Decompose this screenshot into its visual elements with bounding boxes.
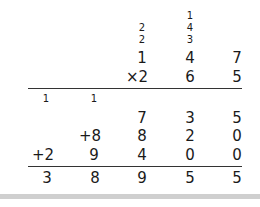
partial-product-digit: +2 <box>32 148 54 163</box>
partial-product-digit: 7 <box>137 111 147 126</box>
partial-product-digit: 4 <box>137 148 147 163</box>
product-rule <box>28 88 242 89</box>
carry-digit: 4 <box>187 23 193 33</box>
result-digit: 9 <box>137 171 147 186</box>
multiplicand-digit: 7 <box>232 51 242 66</box>
partial-product-digit: 5 <box>232 111 242 126</box>
result-digit: 8 <box>90 171 100 186</box>
footer-divider <box>0 194 260 199</box>
carry-digit: 1 <box>187 11 193 21</box>
result-digit: 5 <box>232 171 242 186</box>
carry-digit: 3 <box>187 35 193 45</box>
result-digit: 5 <box>185 171 195 186</box>
partial-product-digit: 3 <box>185 111 195 126</box>
partial-product-digit: 0 <box>232 129 242 144</box>
partial-product-digit: 9 <box>89 148 99 163</box>
sum-carry-digit: 1 <box>91 94 97 104</box>
partial-product-digit: 2 <box>185 129 195 144</box>
sum-rule <box>28 166 242 167</box>
carry-digit: 2 <box>139 35 145 45</box>
partial-product-digit: +8 <box>79 129 101 144</box>
result-digit: 3 <box>42 171 52 186</box>
multiplier-digit: ×2 <box>126 70 148 85</box>
partial-product-digit: 0 <box>185 148 195 163</box>
multiplier-digit: 6 <box>185 70 195 85</box>
multiplier-digit: 5 <box>232 70 242 85</box>
multiplicand-digit: 4 <box>185 51 195 66</box>
carry-digit: 2 <box>139 23 145 33</box>
partial-product-digit: 8 <box>137 129 147 144</box>
multiplicand-digit: 1 <box>137 51 147 66</box>
sum-carry-digit: 1 <box>43 94 49 104</box>
partial-product-digit: 0 <box>232 148 242 163</box>
